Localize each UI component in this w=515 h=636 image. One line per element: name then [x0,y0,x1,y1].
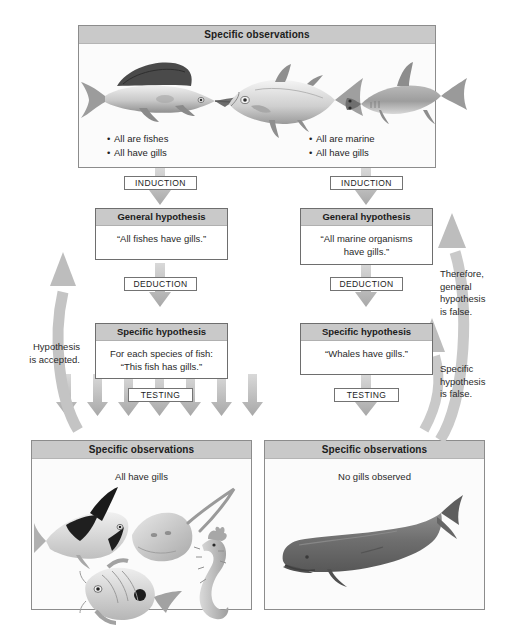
specific-hypothesis-box-right: Specific hypothesis “Whales have gills.” [300,323,433,375]
specific-hypothesis-header-right: Specific hypothesis [301,324,432,341]
specific-hypothesis-text-left: For each species of fish: “This fish has… [96,341,227,373]
bottom-right-caption: No gills observed [265,471,484,482]
bottom-right-observations-header: Specific observations [265,441,484,459]
note-line: is accepted. [4,354,80,367]
specific-hypothesis-header-left: Specific hypothesis [96,324,227,341]
note-line: Specific [440,363,512,376]
note-line: Hypothesis [4,341,80,354]
specific-hypothesis-line2: “This fish has gills.” [96,361,227,374]
general-hypothesis-line1: “All marine organisms [301,233,432,246]
induction-label-left[interactable]: INDUCTION [124,176,197,190]
bottom-right-artwork [265,479,484,631]
arrow-hypothesis-false-curve [438,213,466,440]
note-line: general [440,281,512,294]
diagram-canvas: Specific observations [0,0,515,636]
top-observations-panel: Specific observations [78,25,436,168]
top-observations-body: •All are fishes •All have gills •All are… [79,44,435,168]
general-hypothesis-header-right: General hypothesis [301,209,432,226]
bottom-left-observations-body: All have gills [32,459,251,610]
bottom-left-caption: All have gills [32,471,251,482]
bottom-left-observations-panel: Specific observations All have gills [31,440,252,610]
bullet-text: All have gills [114,147,167,158]
general-hypothesis-line2: have gills.” [301,246,432,259]
general-hypothesis-text-right: “All marine organisms have gills.” [301,226,432,258]
top-observations-header: Specific observations [79,26,435,44]
bottom-left-observations-header: Specific observations [32,441,251,459]
general-hypothesis-false-note: Therefore, general hypothesis is false. [440,268,512,318]
tuna-illustration [229,64,363,138]
butterflyfish-illustration [80,560,182,623]
bottom-right-observations-body: No gills observed [265,459,484,610]
testing-label-right[interactable]: TESTING [334,388,399,402]
stingray-illustration [132,489,234,561]
general-hypothesis-box-left: General hypothesis “All fishes have gill… [95,208,228,260]
induction-label-right[interactable]: INDUCTION [330,176,403,190]
deduction-label-left[interactable]: DEDUCTION [124,277,197,291]
general-hypothesis-box-right: General hypothesis “All marine organisms… [300,208,433,265]
note-line: Therefore, [440,268,512,281]
note-line: is false. [440,388,512,401]
sperm-whale-illustration [283,495,463,587]
bottom-right-observations-panel: Specific observations No gills observed [264,440,485,610]
specific-hypothesis-box-left: Specific hypothesis For each species of … [95,323,228,379]
seahorse-illustration [194,527,228,619]
deduction-label-right[interactable]: DEDUCTION [330,277,403,291]
specific-hypothesis-line1: For each species of fish: [96,348,227,361]
note-line: is false. [440,306,512,319]
bottom-left-artwork [32,479,251,631]
sailfish-illustration [81,63,257,122]
top-right-bullets: •All are marine •All have gills [309,132,375,159]
note-line: hypothesis [440,376,512,389]
general-hypothesis-text-left: “All fishes have gills.” [96,226,227,246]
hammerhead-shark-illustration [346,62,468,124]
specific-hypothesis-false-note: Specific hypothesis is false. [440,363,512,401]
angelfish-illustration [34,487,128,569]
note-line: hypothesis [440,293,512,306]
bullet-text: All have gills [316,147,369,158]
bullet-text: All are fishes [114,133,168,144]
testing-label-left[interactable]: TESTING [128,388,193,402]
top-left-bullets: •All are fishes •All have gills [107,132,168,159]
general-hypothesis-header-left: General hypothesis [96,209,227,226]
bullet-text: All are marine [316,133,375,144]
hypothesis-accepted-note: Hypothesis is accepted. [4,341,80,366]
specific-hypothesis-text-right: “Whales have gills.” [301,341,432,361]
